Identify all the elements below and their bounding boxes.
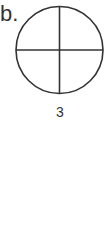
figure-caption: 3: [0, 104, 105, 120]
